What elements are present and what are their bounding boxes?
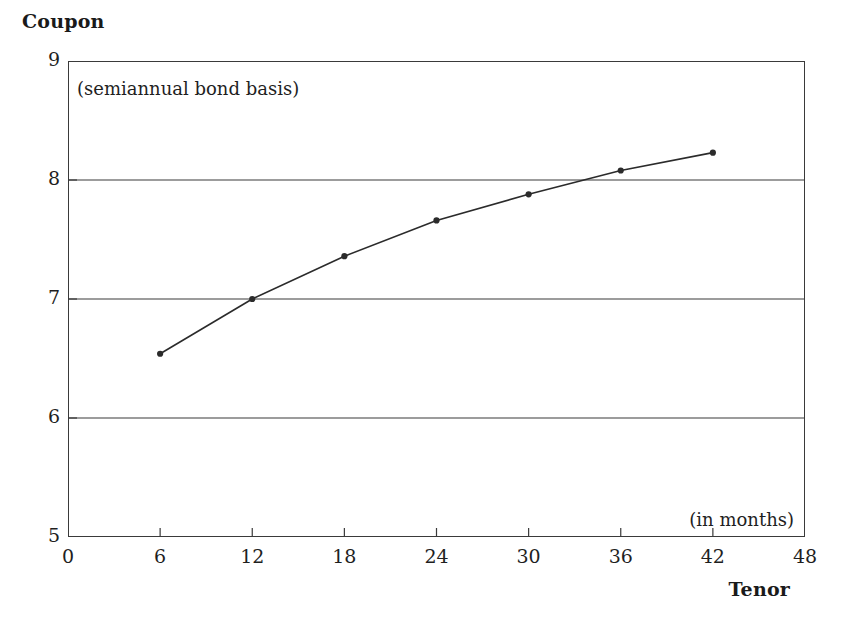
y-tick-label-7: 7 xyxy=(20,286,60,308)
y-tick-label-8: 8 xyxy=(20,167,60,189)
coupon-curve-markers xyxy=(157,150,716,357)
x-tick-label-18: 18 xyxy=(314,545,374,567)
coupon-curve-line xyxy=(160,153,713,354)
y-tick-label-5: 5 xyxy=(20,524,60,546)
x-tick-label-30: 30 xyxy=(499,545,559,567)
y-tick-label-6: 6 xyxy=(20,405,60,427)
x-tick-label-42: 42 xyxy=(683,545,743,567)
gridline-group xyxy=(68,180,805,418)
chart-plot-area xyxy=(68,61,805,537)
x-axis-title: Tenor xyxy=(0,578,790,600)
x-tick-label-0: 0 xyxy=(38,545,98,567)
x-tick-label-48: 48 xyxy=(775,545,835,567)
x-tick-label-12: 12 xyxy=(222,545,282,567)
chart-canvas: Coupon (semiannual bond basis) (in month… xyxy=(0,0,846,628)
x-tick-label-6: 6 xyxy=(130,545,190,567)
x-tick-label-36: 36 xyxy=(591,545,651,567)
x-tick-label-24: 24 xyxy=(407,545,467,567)
x-tickmark-group xyxy=(160,528,713,537)
y-axis-title: Coupon xyxy=(22,10,105,32)
y-tick-label-9: 9 xyxy=(20,48,60,70)
y-tickmark-group xyxy=(68,180,77,418)
